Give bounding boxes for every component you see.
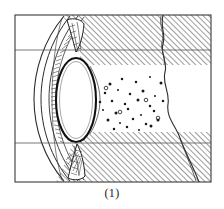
vitreous-dot — [135, 81, 138, 84]
vitreous-dot — [113, 128, 116, 131]
upper-hatched-band — [62, 15, 211, 65]
figure-panel: (1) — [0, 0, 224, 209]
vitreous-dot — [154, 95, 156, 97]
vitreous-dot — [145, 123, 148, 126]
vitreous-dot — [124, 103, 127, 106]
vitreous-dot — [127, 108, 130, 111]
vitreous-dot — [153, 110, 156, 113]
vitreous-dot — [104, 92, 107, 95]
figure-caption: (1) — [0, 186, 224, 201]
vitreous-dot — [137, 99, 140, 102]
vitreous-dot — [111, 100, 114, 103]
vitreous-dot — [138, 129, 140, 131]
vitreous-dot — [119, 122, 121, 124]
vitreous-dot — [117, 89, 119, 91]
vitreous-dot — [109, 83, 112, 86]
eye-cross-section-drawing — [0, 0, 224, 209]
vitreous-dot — [115, 112, 118, 115]
vitreous-dot — [102, 109, 104, 111]
vitreous-dot — [150, 125, 153, 128]
vitreous-dot — [126, 126, 129, 129]
vitreous-dot — [142, 90, 145, 93]
vitreous-dot — [129, 93, 132, 96]
vitreous-dot — [149, 105, 152, 108]
vitreous-dot — [99, 101, 102, 104]
vitreous-dot — [149, 76, 151, 78]
vitreous-dot — [132, 118, 135, 121]
vitreous-dot — [107, 119, 110, 122]
crystalline-lens — [56, 58, 96, 142]
vitreous-dot — [162, 100, 165, 103]
vitreous-dot — [160, 82, 163, 85]
vitreous-dot — [121, 78, 124, 81]
vitreous-dot — [140, 114, 142, 116]
